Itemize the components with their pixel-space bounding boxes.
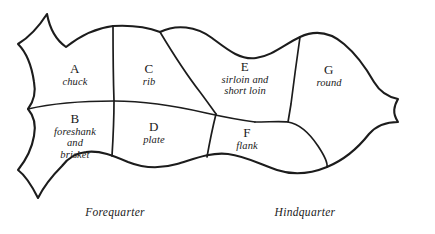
divider-d-f-path	[207, 114, 216, 157]
beef-cuts-diagram: A chuck B foreshank and brisket C rib D …	[0, 0, 435, 234]
divider-e-g-path	[288, 37, 300, 122]
divider-c-e-path	[160, 32, 216, 114]
caption-hindquarter: Hindquarter	[250, 206, 360, 218]
divider-upper-lower-path	[28, 101, 255, 122]
divider-f-g-path	[255, 122, 327, 167]
divider-a-c-path	[113, 26, 114, 101]
divider-b-d-path	[112, 101, 114, 156]
caption-forequarter: Forequarter	[60, 206, 170, 218]
carcass-outline-svg	[0, 0, 435, 234]
body-outline-path	[18, 14, 398, 198]
